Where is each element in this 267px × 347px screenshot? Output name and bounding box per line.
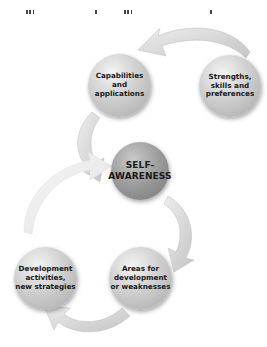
node-label-line: or weaknesses bbox=[111, 283, 171, 292]
center-label-line: AWARENESS bbox=[108, 171, 171, 182]
node-self-awareness: SELF- AWARENESS bbox=[111, 142, 169, 200]
node-strengths: Strengths, skills and preferences bbox=[199, 55, 261, 117]
node-label-line: new strategies bbox=[15, 283, 75, 292]
center-label-line: SELF- bbox=[108, 160, 171, 171]
node-capabilities: Capabilities and applications bbox=[88, 54, 151, 117]
arrow-strengths-to-capabilities bbox=[138, 28, 250, 58]
arrow-development-to-self-awareness bbox=[24, 152, 112, 234]
node-label-line: applications bbox=[95, 90, 144, 99]
arrow-areas-to-development bbox=[44, 306, 130, 332]
node-label-line: preferences bbox=[206, 90, 255, 99]
node-areas-for-development: Areas for development or weaknesses bbox=[109, 247, 172, 310]
arrow-self-awareness-to-areas bbox=[164, 196, 194, 272]
node-development-activities: Development activities, new strategies bbox=[14, 247, 77, 310]
